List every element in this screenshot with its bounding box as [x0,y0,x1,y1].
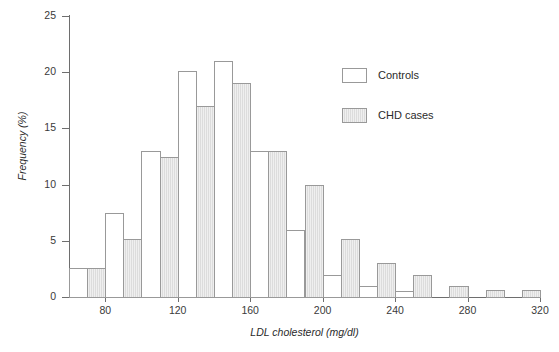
x-tick-label: 320 [520,305,559,316]
y-tick-mark [62,241,70,242]
bar-controls-120-140 [178,71,197,298]
bar-chd-cases-60-80 [87,268,106,298]
ldl-cholesterol-histogram: 0510152025 80120160200240280320 Frequenc… [0,0,559,352]
bar-controls-160-180 [250,151,269,298]
bar-chd-cases-140-160 [232,83,251,298]
bar-controls-200-220 [323,275,342,298]
bar-controls-100-120 [141,151,160,298]
bar-controls-140-160 [214,61,233,298]
y-tick-mark [62,185,70,186]
y-tick-mark [62,72,70,73]
y-tick-label: 5 [20,235,56,246]
y-tick-label: 20 [20,66,56,77]
y-tick-mark [62,16,70,17]
bar-chd-cases-120-140 [196,106,215,298]
bar-controls-240-260 [395,291,414,298]
x-tick-label: 120 [158,305,198,316]
x-tick-label: 240 [375,305,415,316]
bar-chd-cases-80-100 [123,239,142,298]
x-tick-label: 80 [85,305,125,316]
x-tick-label: 200 [303,305,343,316]
x-axis-title: LDL cholesterol (mg/dl) [69,326,540,338]
bar-controls-80-100 [105,213,124,298]
bar-chd-cases-200-220 [341,239,360,298]
bar-chd-cases-240-260 [413,275,432,298]
y-tick-label: 25 [20,10,56,21]
y-tick-label: 0 [20,291,56,302]
bar-controls-180-200 [286,230,305,298]
y-tick-mark [62,128,70,129]
y-axis-line [69,15,70,298]
x-tick-label: 160 [230,305,270,316]
bar-chd-cases-220-240 [377,263,396,298]
legend-label-chd-cases: CHD cases [378,110,434,121]
bar-chd-cases-260-280 [449,286,468,298]
chart-legend: Controls CHD cases [342,66,434,146]
x-tick-label: 280 [448,305,488,316]
bar-chd-cases-280-300 [486,290,505,298]
legend-item-chd-cases: CHD cases [342,106,434,124]
y-axis-title: Frequency (%) [16,86,28,206]
bar-controls-220-240 [359,286,378,298]
legend-item-controls: Controls [342,66,434,84]
bar-chd-cases-160-180 [268,151,287,298]
bar-chd-cases-300-320 [522,290,541,298]
bar-controls-60-80 [69,268,88,298]
bar-chd-cases-180-200 [305,185,324,298]
legend-label-controls: Controls [378,70,419,81]
legend-swatch-chd-cases-icon [342,108,367,123]
bar-chd-cases-100-120 [160,157,179,299]
legend-swatch-controls-icon [342,68,367,83]
